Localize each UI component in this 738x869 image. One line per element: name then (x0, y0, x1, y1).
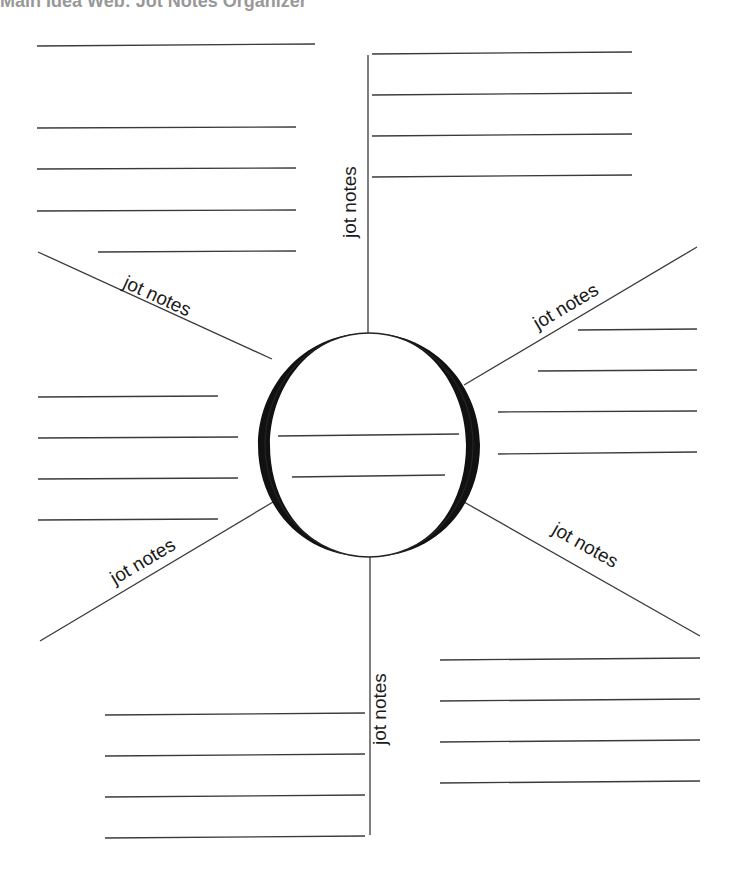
writing-line[interactable] (38, 478, 238, 479)
label-top: jot notes (339, 166, 360, 239)
writing-lines-bottom-right (440, 658, 700, 783)
writing-lines-top-right (372, 52, 632, 177)
main-idea-line[interactable] (278, 434, 459, 436)
spoke-lower-left (40, 502, 273, 641)
writing-line[interactable] (372, 93, 632, 95)
spoke-upper-right (464, 247, 697, 385)
writing-line[interactable] (37, 44, 315, 46)
writing-line[interactable] (440, 699, 700, 701)
writing-line[interactable] (440, 658, 700, 660)
writing-line[interactable] (105, 713, 365, 715)
writing-line[interactable] (538, 370, 697, 371)
writing-lines-top-left (37, 44, 315, 252)
writing-line[interactable] (372, 134, 632, 136)
writing-line[interactable] (578, 329, 697, 330)
circle-left-crescent (258, 333, 369, 557)
writing-lines-bottom-left (105, 713, 365, 838)
writing-lines-left (38, 396, 238, 520)
label-upper-left: jot notes (119, 271, 194, 320)
writing-line[interactable] (37, 168, 296, 169)
writing-line[interactable] (440, 740, 700, 742)
writing-line[interactable] (498, 452, 697, 454)
writing-line[interactable] (498, 411, 697, 412)
center-circle (258, 333, 480, 557)
jot-notes-web: jot notes jot notes jot notes jot notes … (0, 0, 738, 869)
writing-line[interactable] (38, 396, 218, 397)
writing-line[interactable] (38, 437, 238, 438)
circle-right-crescent (369, 333, 480, 557)
writing-line[interactable] (38, 519, 218, 520)
main-idea-line[interactable] (292, 475, 445, 477)
writing-line[interactable] (105, 836, 365, 838)
writing-line[interactable] (372, 52, 632, 54)
label-bottom: jot notes (369, 673, 390, 746)
writing-line[interactable] (37, 210, 296, 211)
spoke-lower-right (464, 502, 700, 636)
writing-line[interactable] (440, 781, 700, 783)
label-lower-right: jot notes (548, 518, 622, 572)
writing-line[interactable] (37, 127, 296, 128)
writing-line[interactable] (372, 175, 632, 177)
writing-line[interactable] (105, 754, 365, 756)
writing-line[interactable] (105, 795, 365, 797)
writing-line[interactable] (98, 251, 296, 252)
